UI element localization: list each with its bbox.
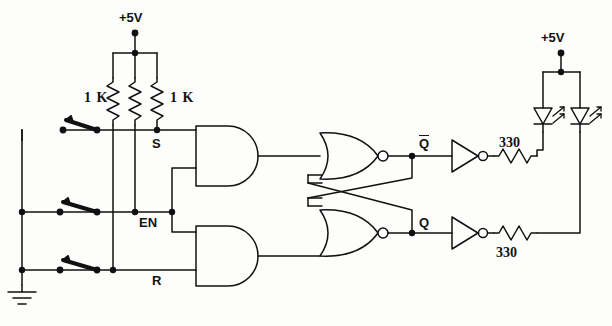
qbar-text: Q (419, 135, 429, 150)
resistor-label-330-bottom: 330 (496, 246, 517, 260)
ground-bus (8, 130, 36, 304)
supply-terminal-dot (132, 30, 139, 37)
s-junction-dot (154, 127, 160, 133)
right-supply-junction-dot (558, 69, 564, 75)
left-supply-label: +5V (119, 11, 143, 24)
pullup-right-label: 1 K (170, 91, 194, 105)
pullup-resistor-2 (129, 78, 141, 212)
right-supply-label: +5V (541, 31, 565, 44)
set-switch[interactable] (22, 116, 100, 140)
r-junction-dot (110, 267, 116, 273)
led-q (571, 107, 601, 132)
pullup-left-label: 1 K (84, 91, 108, 105)
pullup-resistor-1 (107, 78, 119, 270)
cross-coupling-net (308, 153, 415, 236)
schematic-canvas: +5V +5V 1 K 1 K S EN R Q Q 330 330 (0, 0, 612, 326)
right-supply-net (543, 50, 580, 108)
node-label-s: S (152, 137, 161, 150)
left-supply-net (113, 30, 157, 78)
and-gate-set (196, 126, 320, 186)
node-label-q: Q (419, 216, 429, 229)
node-label-r: R (152, 274, 161, 287)
node-label-qbar: Q (419, 135, 429, 150)
right-supply-terminal-dot (558, 50, 565, 57)
led-qbar (534, 107, 564, 132)
node-label-en: EN (139, 216, 157, 229)
en-net (19, 168, 196, 232)
en-junction-dot (132, 209, 138, 215)
reset-switch[interactable] (57, 256, 101, 273)
nor-gate-top (308, 133, 412, 183)
circuit-drawing (0, 0, 612, 326)
pullup-resistor-3 (151, 78, 163, 130)
and-gate-reset (196, 226, 320, 286)
resistor-label-330-top: 330 (499, 136, 520, 150)
r-net (19, 267, 196, 273)
s-net (63, 127, 196, 133)
enable-switch[interactable] (57, 198, 101, 215)
